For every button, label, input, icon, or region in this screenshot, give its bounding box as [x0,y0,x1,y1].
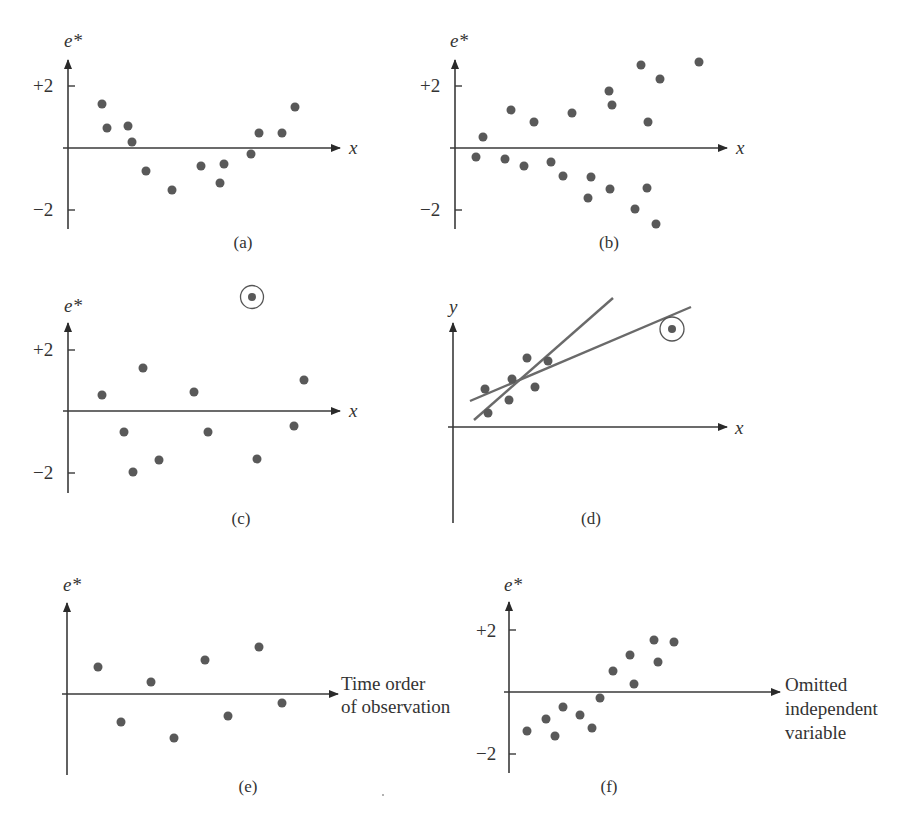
panel-d: y x (d) [447,296,744,528]
data-points [481,354,553,418]
ytick-label-minus2: −2 [33,199,53,220]
ytick-label-minus2: −2 [476,743,496,764]
scan-speck [382,794,384,796]
data-points [523,636,679,741]
data-points [472,58,704,229]
data-points [98,364,309,477]
panel-e: e* Time order of observation (e) [62,574,451,796]
y-axis-label: e* [63,574,81,595]
panel-caption: (a) [234,233,253,252]
influential-point-circled [660,317,684,341]
x-axis-label: x [348,137,358,158]
x-axis-label: x [734,417,744,438]
panel-c: +2 −2 e* x (c) [33,286,358,529]
residual-plots-figure: +2 −2 e* x (a) +2 −2 e* x (b) [0,0,911,823]
panel-caption: (c) [232,509,251,528]
regression-line-shallow [470,307,691,401]
x-axis-label-line2: of observation [341,696,451,717]
y-axis-label: e* [450,30,468,51]
data-points [94,643,287,743]
regression-line-steep [474,298,613,420]
outlier-point-circled [241,286,264,309]
panel-caption: (b) [599,233,619,252]
x-axis-label-line3: variable [785,722,846,743]
panel-caption: (d) [581,509,601,528]
y-axis-label: e* [64,30,82,51]
x-axis-label-line1: Time order [341,673,426,694]
ytick-label-minus2: −2 [420,199,440,220]
ytick-label-plus2: +2 [33,339,53,360]
ytick-label-plus2: +2 [33,75,53,96]
x-axis-label: x [735,137,745,158]
y-axis-label: e* [504,574,522,595]
y-axis-label: e* [64,295,82,316]
panel-b: +2 −2 e* x (b) [420,30,745,252]
panel-caption: (e) [239,777,258,796]
x-axis-label-line1: Omitted [785,674,848,695]
data-points [98,100,300,195]
ytick-label-plus2: +2 [476,620,496,641]
ytick-label-minus2: −2 [33,462,53,483]
x-axis-label: x [348,400,358,421]
panel-f: +2 −2 e* Omitted independent variable (f… [476,574,879,796]
panel-a: +2 −2 e* x (a) [33,30,358,252]
x-axis-label-line2: independent [785,698,879,719]
ytick-label-plus2: +2 [420,75,440,96]
y-axis-label: y [447,296,458,317]
panel-caption: (f) [601,777,618,796]
